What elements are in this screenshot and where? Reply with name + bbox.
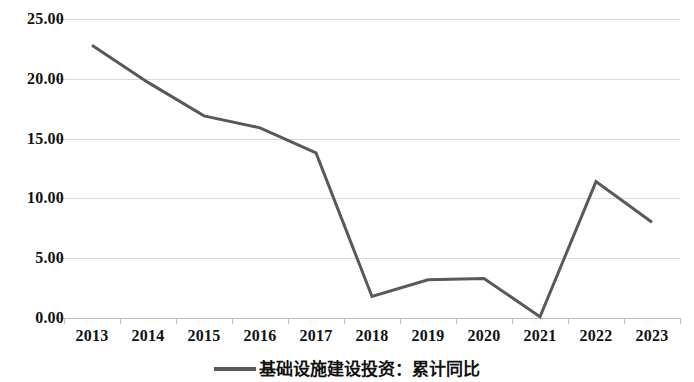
x-axis-tick (120, 318, 121, 324)
y-axis-label: 10.00 (8, 190, 64, 206)
y-axis-label: 15.00 (8, 131, 64, 147)
x-axis-label: 2022 (568, 328, 624, 344)
y-axis-label: 0.00 (8, 310, 64, 326)
x-axis-label: 2020 (456, 328, 512, 344)
x-axis-label: 2021 (512, 328, 568, 344)
y-axis-label: 20.00 (8, 71, 64, 87)
x-axis-tick (680, 318, 681, 324)
line-chart: 0.005.0010.0015.0020.0025.00 20132014201… (0, 0, 694, 382)
x-axis-tick (456, 318, 457, 324)
plot-area (64, 19, 680, 318)
legend-line-swatch (214, 367, 256, 371)
y-axis: 0.005.0010.0015.0020.0025.00 (0, 0, 64, 382)
x-axis-label: 2015 (176, 328, 232, 344)
series-polyline (92, 45, 652, 316)
y-axis-label: 25.00 (8, 11, 64, 27)
x-axis-tick (400, 318, 401, 324)
x-axis-tick (176, 318, 177, 324)
x-axis-tick (344, 318, 345, 324)
x-axis-label: 2023 (624, 328, 680, 344)
x-axis-label: 2014 (120, 328, 176, 344)
x-axis: 2013201420152016201720182019202020212022… (64, 318, 680, 358)
y-axis-label: 5.00 (8, 250, 64, 266)
series-line (64, 19, 680, 318)
x-axis-tick (64, 318, 65, 324)
chart-legend: 基础设施建设投资：累计同比 (0, 356, 694, 382)
x-axis-label: 2013 (64, 328, 120, 344)
x-axis-label: 2016 (232, 328, 288, 344)
x-axis-tick (232, 318, 233, 324)
x-axis-label: 2018 (344, 328, 400, 344)
x-axis-tick (568, 318, 569, 324)
x-axis-tick (288, 318, 289, 324)
x-axis-tick (512, 318, 513, 324)
x-axis-label: 2019 (400, 328, 456, 344)
legend-label: 基础设施建设投资：累计同比 (259, 361, 480, 378)
x-axis-label: 2017 (288, 328, 344, 344)
x-axis-tick (624, 318, 625, 324)
